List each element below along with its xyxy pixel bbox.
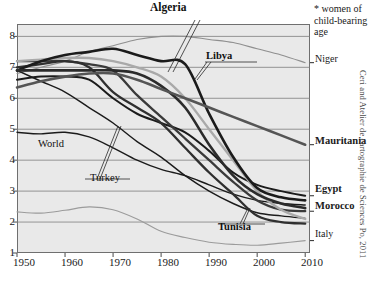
right-label-egypt: Egypt — [315, 183, 342, 195]
chart-title-algeria: Algeria — [150, 1, 186, 13]
leader-libya-2 — [197, 62, 211, 80]
y-tick-6: 6 — [1, 92, 15, 103]
credit-text: Ceri and Atelier de cartographie de Scie… — [358, 70, 368, 258]
x-tick-1980: 1980 — [152, 256, 184, 269]
y-tick-2: 2 — [1, 216, 15, 227]
right-label-niger: Niger — [315, 53, 338, 65]
y-axis-tick-labels: 8 7 6 5 4 3 2 1 — [0, 24, 15, 253]
label-libya: Libya — [206, 50, 232, 61]
x-tick-1970: 1970 — [104, 256, 136, 269]
right-label-italy: Italy — [315, 228, 333, 240]
y-tick-7: 7 — [1, 61, 15, 72]
right-label-morocco: Morocco — [315, 200, 354, 212]
y-tick-4: 4 — [1, 154, 15, 165]
x-axis-tick-labels: 1950 1960 1970 1980 1990 2000 2010 — [17, 256, 310, 272]
series-line-italy — [17, 207, 305, 245]
series-line-mauritania — [17, 73, 305, 145]
label-tunisia: Tunisia — [218, 221, 251, 232]
footnote-line-3: age — [314, 26, 390, 38]
y-tick-8: 8 — [1, 30, 15, 41]
label-turkey: Turkey — [90, 172, 120, 183]
label-world: World — [38, 138, 64, 149]
footnote-line-2: child-bearing — [314, 15, 390, 27]
y-tick-5: 5 — [1, 123, 15, 134]
footnote: * women of child-bearing age — [314, 3, 390, 38]
x-tick-1950: 1950 — [8, 256, 40, 269]
footnote-line-1: * women of — [314, 3, 390, 15]
x-tick-2010: 2010 — [296, 256, 328, 269]
series-line-egypt — [17, 76, 305, 196]
x-tick-2000: 2000 — [248, 256, 280, 269]
x-tick-1990: 1990 — [200, 256, 232, 269]
x-tick-1960: 1960 — [56, 256, 88, 269]
series-line-morocco — [17, 61, 305, 211]
chart-figure: Algeria 8 7 6 5 4 3 2 1 1950 1960 1970 1… — [0, 0, 392, 281]
leader-algeria — [168, 20, 195, 72]
y-tick-3: 3 — [1, 185, 15, 196]
leader-libya — [195, 62, 207, 79]
